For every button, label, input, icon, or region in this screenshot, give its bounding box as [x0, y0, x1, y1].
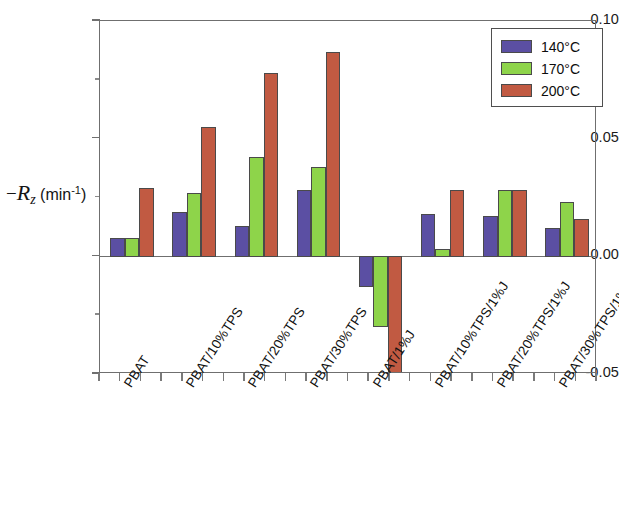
bar-pbat-30-tps-1-j-200C [574, 219, 589, 257]
x-tick-mark [533, 373, 535, 381]
x-tick-mark [347, 373, 349, 381]
bar-pbat-20-tps-1-j-200C [512, 190, 527, 257]
bar-pbat-20-tps-170C [249, 157, 264, 257]
bar-pbat-170C [125, 238, 140, 258]
x-tick-mark [492, 373, 494, 381]
bar-pbat-10-tps-1-j-140C [421, 214, 436, 257]
x-tick-mark [430, 373, 432, 381]
bar-pbat-1-j-140C [359, 256, 374, 287]
x-tick-mark [554, 373, 556, 381]
legend-label: 200°C [541, 83, 580, 99]
bar-pbat-1-j-170C [373, 256, 388, 327]
x-tick-mark [471, 373, 473, 381]
bar-group [110, 21, 154, 372]
y-axis-title-units-exponent: -1 [71, 184, 81, 196]
legend-item: 200°C [501, 80, 602, 101]
y-axis-title: −Rz (min-1) [6, 180, 86, 208]
bar-pbat-10-tps-170C [187, 193, 202, 257]
x-tick-mark [595, 373, 597, 381]
x-tick-mark [243, 373, 245, 381]
y-axis-title-units-open: (min [36, 186, 72, 203]
legend-swatch [501, 40, 532, 53]
bar-pbat-30-tps-1-j-170C [560, 202, 575, 257]
x-tick-mark [119, 373, 121, 381]
bar-pbat-10-tps-1-j-200C [450, 190, 465, 257]
bar-pbat-30-tps-200C [326, 52, 341, 258]
bar-pbat-10-tps-200C [201, 127, 216, 257]
x-tick-mark [181, 373, 183, 381]
y-axis-title-units-close: ) [81, 186, 86, 203]
legend-swatch [501, 62, 532, 75]
legend-item: 140°C [501, 36, 602, 57]
x-tick-mark [409, 373, 411, 381]
legend-label: 140°C [541, 39, 580, 55]
x-tick-mark [285, 373, 287, 381]
x-tick-mark [223, 373, 225, 381]
legend-label: 170°C [541, 61, 580, 77]
legend-swatch [501, 84, 532, 97]
x-tick-mark [367, 373, 369, 381]
bar-chart-figure: −Rz (min-1) -0.050.000.050.10 PBATPBAT/1… [0, 0, 619, 513]
bar-pbat-30-tps-1-j-140C [545, 228, 560, 257]
bar-group [421, 21, 465, 372]
bar-group [172, 21, 216, 372]
legend-item: 170°C [501, 58, 602, 79]
bar-pbat-30-tps-170C [311, 167, 326, 257]
bar-pbat-20-tps-200C [264, 73, 279, 257]
bar-pbat-30-tps-140C [297, 190, 312, 257]
bar-pbat-20-tps-1-j-140C [483, 216, 498, 257]
x-tick-mark [160, 373, 162, 381]
bar-pbat-200C [139, 188, 154, 257]
bar-pbat-10-tps-1-j-170C [435, 249, 450, 257]
bar-pbat-20-tps-140C [235, 226, 250, 257]
y-axis-title-symbol: R [17, 180, 30, 205]
bar-pbat-20-tps-1-j-170C [498, 190, 513, 257]
bar-pbat-10-tps-140C [172, 212, 187, 258]
chart-legend: 140°C170°C200°C [491, 28, 603, 107]
y-axis-title-minus: − [6, 183, 17, 204]
x-tick-mark [305, 373, 307, 381]
x-tick-mark [98, 373, 100, 381]
bar-pbat-140C [110, 238, 125, 258]
